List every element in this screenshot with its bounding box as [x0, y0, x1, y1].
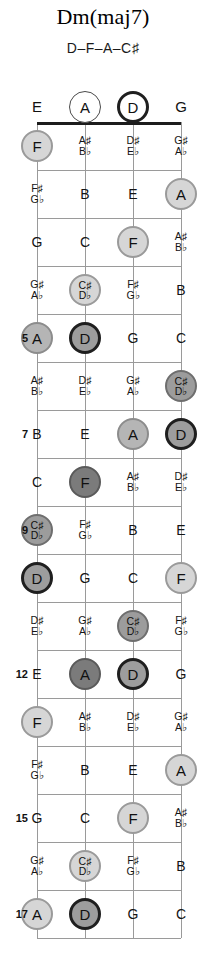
fret-dot-f14-s4-A[interactable]: A	[165, 754, 197, 786]
note-flat-name: D♭	[79, 290, 92, 301]
fretboard: EADG FA♯B♭D♯E♭G♯A♭F♯G♭BEAGCFA♯B♭G♯A♭C♯D♭…	[0, 88, 206, 958]
note-sharp-name: G♯	[110, 375, 156, 386]
note-sharp-name: A♯	[14, 375, 60, 386]
fret-note-f5-s4-C: C	[158, 331, 204, 345]
fret-note-f14-s2-B: B	[62, 763, 108, 777]
fret-dot-label: F	[80, 475, 89, 490]
fret-note-f13-s2-A♯/B♭: A♯B♭	[62, 711, 108, 732]
fret-note-f5-s3-G: G	[110, 331, 156, 345]
fret-note-f13-s4-G♯/A♭: G♯A♭	[158, 711, 204, 732]
fret-wire-8	[37, 506, 181, 507]
fret-note-f8-s4-D♯/E♭: D♯E♭	[158, 471, 204, 492]
note-flat-name: B♭	[158, 242, 204, 253]
fret-dot-f11-s3-C♯/D♭[interactable]: C♯D♭	[117, 610, 149, 642]
fret-note-f15-s4-A♯/B♭: A♯B♭	[158, 807, 204, 828]
fret-wire-3	[37, 266, 181, 267]
note-sharp-name: A♯	[158, 231, 204, 242]
fret-dot-f8-s2-F[interactable]: F	[69, 466, 101, 498]
fret-wire-6	[37, 410, 181, 411]
fret-note-f4-s1-G♯/A♭: G♯A♭	[14, 279, 60, 300]
open-string-dot-D[interactable]: D	[117, 91, 149, 123]
fret-dot-f7-s4-D[interactable]: D	[165, 418, 197, 450]
fret-note-f7-s2-E: E	[62, 427, 108, 441]
fret-wire-13	[37, 746, 181, 747]
note-flat-name: D♭	[127, 626, 140, 637]
note-flat-name: E♭	[110, 722, 156, 733]
fret-note-f6-s3-G♯/A♭: G♯A♭	[110, 375, 156, 396]
fret-dot-label: D	[80, 331, 91, 346]
note-sharp-name: A♯	[62, 711, 108, 722]
open-string-dot-A[interactable]: A	[69, 91, 101, 123]
note-flat-name: D♭	[79, 866, 92, 877]
note-sharp-name: D♯	[62, 375, 108, 386]
fret-dot-f3-s3-F[interactable]: F	[117, 226, 149, 258]
note-sharp-name: G♯	[158, 135, 204, 146]
fret-wire-1	[37, 170, 181, 171]
fret-dot-f5-s2-D[interactable]: D	[69, 322, 101, 354]
note-flat-name: G♭	[14, 194, 60, 205]
fret-dot-f1-s1-F[interactable]: F	[21, 130, 53, 162]
note-flat-name: B♭	[158, 818, 204, 829]
fret-number-15: 15	[2, 812, 28, 824]
fret-dot-f10-s4-F[interactable]: F	[165, 562, 197, 594]
fret-dot-f2-s4-A[interactable]: A	[165, 178, 197, 210]
fret-dot-f6-s4-C♯/D♭[interactable]: C♯D♭	[165, 370, 197, 402]
fret-dot-f12-s2-A[interactable]: A	[69, 658, 101, 690]
fret-wire-9	[37, 554, 181, 555]
fret-note-f16-s3-F♯/G♭: F♯G♭	[110, 855, 156, 876]
fret-note-f13-s3-D♯/E♭: D♯E♭	[110, 711, 156, 732]
fret-note-f8-s3-A♯/B♭: A♯B♭	[110, 471, 156, 492]
fret-wire-5	[37, 362, 181, 363]
fret-note-f12-s4-G: G	[158, 667, 204, 681]
open-string-label-E: E	[14, 99, 60, 114]
fret-number-5: 5	[2, 332, 28, 344]
note-flat-name: B♭	[62, 722, 108, 733]
fret-note-f9-s3-B: B	[110, 523, 156, 537]
fret-dot-f12-s3-D[interactable]: D	[117, 658, 149, 690]
note-flat-name: B♭	[62, 146, 108, 157]
fret-dot-f10-s1-D[interactable]: D	[21, 562, 53, 594]
note-sharp-name: D♯	[110, 135, 156, 146]
fret-note-f9-s4-E: E	[158, 523, 204, 537]
note-flat-name: A♭	[158, 722, 204, 733]
fret-dot-label: D	[80, 907, 91, 922]
fret-dot-f15-s3-F[interactable]: F	[117, 802, 149, 834]
fret-wire-17	[37, 938, 181, 939]
fret-dot-label: C♯D♭	[127, 616, 140, 637]
fret-dot-label: D	[32, 571, 43, 586]
fret-note-f2-s1-F♯/G♭: F♯G♭	[14, 183, 60, 204]
note-sharp-name: F♯	[110, 855, 156, 866]
note-flat-name: A♭	[62, 626, 108, 637]
fret-dot-label: A	[176, 763, 186, 778]
note-sharp-name: F♯	[62, 519, 108, 530]
note-sharp-name: G♯	[158, 711, 204, 722]
fret-number-12: 12	[2, 668, 28, 680]
fret-note-f6-s1-A♯/B♭: A♯B♭	[14, 375, 60, 396]
fret-note-f11-s4-F♯/G♭: F♯G♭	[158, 615, 204, 636]
note-sharp-name: G♯	[62, 615, 108, 626]
fret-dot-f16-s2-C♯/D♭[interactable]: C♯D♭	[69, 850, 101, 882]
note-sharp-name: A♯	[62, 135, 108, 146]
fret-wire-12	[37, 698, 181, 699]
note-flat-name: E♭	[14, 626, 60, 637]
fret-dot-f17-s2-D[interactable]: D	[69, 898, 101, 930]
fret-note-f16-s1-G♯/A♭: G♯A♭	[14, 855, 60, 876]
note-flat-name: B♭	[110, 482, 156, 493]
fret-dot-label: C♯D♭	[79, 856, 92, 877]
fret-wire-14	[37, 794, 181, 795]
fret-dot-label: D	[176, 427, 187, 442]
fret-number-7: 7	[2, 428, 28, 440]
fret-note-f6-s2-D♯/E♭: D♯E♭	[62, 375, 108, 396]
note-flat-name: G♭	[62, 530, 108, 541]
fret-dot-f7-s3-A[interactable]: A	[117, 418, 149, 450]
fret-dot-label: F	[32, 715, 41, 730]
fret-dot-label: A	[128, 427, 138, 442]
note-sharp-name: G♯	[14, 855, 60, 866]
note-sharp-name: F♯	[14, 183, 60, 194]
fret-note-f1-s2-A♯/B♭: A♯B♭	[62, 135, 108, 156]
fret-dot-f13-s1-F[interactable]: F	[21, 706, 53, 738]
fret-note-f2-s2-B: B	[62, 187, 108, 201]
fret-note-f9-s2-F♯/G♭: F♯G♭	[62, 519, 108, 540]
note-flat-name: A♭	[14, 866, 60, 877]
fret-dot-f4-s2-C♯/D♭[interactable]: C♯D♭	[69, 274, 101, 306]
